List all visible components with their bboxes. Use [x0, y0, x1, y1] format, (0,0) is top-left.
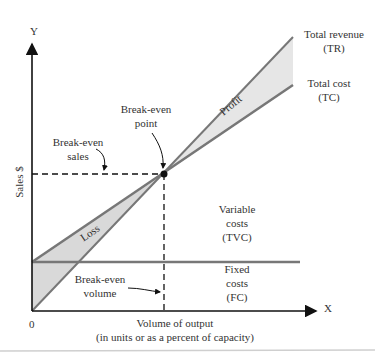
- y-axis-title: Sales $: [13, 166, 25, 198]
- break-even-sales-arrow: [96, 149, 105, 170]
- x-axis-letter: X: [324, 302, 332, 314]
- bottom-divider: [0, 350, 375, 351]
- break-even-volume-arrow: [128, 288, 160, 292]
- variable-costs-label-1: Variable: [219, 203, 256, 215]
- y-axis-letter: Y: [30, 25, 38, 37]
- total-revenue-label-2: (TR): [323, 42, 345, 55]
- total-cost-label-1: Total cost: [308, 77, 351, 89]
- break-even-point-label-2: point: [135, 117, 158, 129]
- x-axis-title: Volume of output: [137, 317, 214, 329]
- fixed-costs-label-1: Fixed: [224, 263, 250, 275]
- variable-costs-label-2: costs: [226, 217, 248, 229]
- break-even-point-label-1: Break-even: [121, 103, 172, 115]
- total-cost-label-2: (TC): [318, 91, 340, 104]
- break-even-sales-label-2: sales: [67, 150, 88, 162]
- variable-costs-label-3: (TVC): [222, 231, 252, 244]
- fixed-costs-label-3: (FC): [227, 291, 248, 304]
- break-even-volume-label-1: Break-even: [75, 273, 126, 285]
- break-even-point-marker: [161, 171, 168, 178]
- break-even-sales-label-1: Break-even: [53, 136, 104, 148]
- fixed-costs-label-2: costs: [226, 277, 248, 289]
- break-even-chart: Y X 0 Sales $ Volume of output (in units…: [0, 0, 375, 360]
- break-even-volume-label-2: volume: [84, 287, 117, 299]
- origin-label: 0: [29, 318, 35, 330]
- total-revenue-label-1: Total revenue: [304, 28, 364, 40]
- x-axis-subtitle: (in units or as a percent of capacity): [96, 331, 254, 344]
- break-even-point-arrow: [152, 133, 163, 168]
